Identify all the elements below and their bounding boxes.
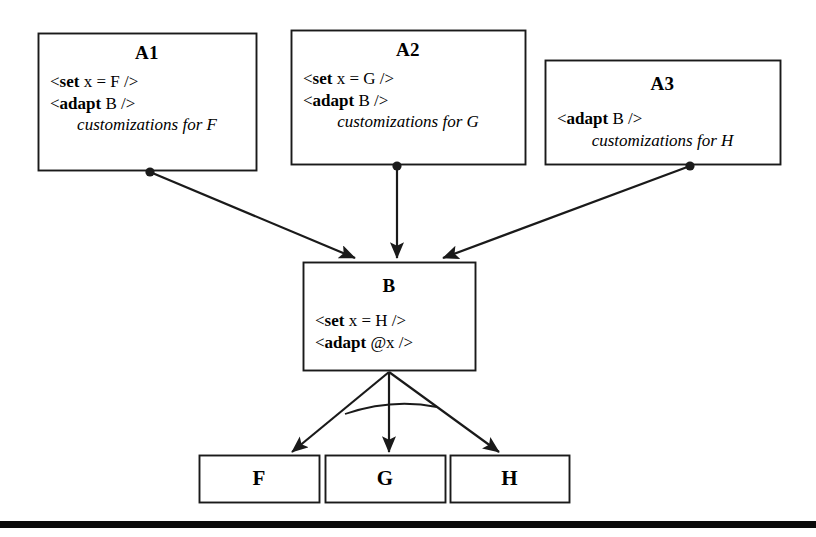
element-keyword: set [60, 72, 80, 91]
node-body-b: <set x = H /><adapt @x /> [303, 310, 475, 354]
node-b[interactable]: B<set x = H /><adapt @x /> [303, 262, 475, 370]
edge-a3-to-b [443, 166, 690, 258]
element-keyword: adapt [325, 333, 367, 352]
node-line-a1-2: customizations for F [38, 114, 256, 136]
node-line-a1-0: <set x = F /> [38, 71, 256, 93]
leaf-node-h[interactable]: H [450, 455, 569, 502]
node-line-a3-0: <adapt B /> [545, 108, 780, 130]
node-line-b-0: <set x = H /> [303, 310, 475, 332]
edge-b-to-f [292, 372, 389, 452]
bottom-rule-divider [0, 521, 816, 528]
leaf-label-h: H [501, 466, 518, 491]
edge-a1-to-b [150, 172, 355, 258]
node-body-a1: <set x = F /><adapt B />customizations f… [38, 71, 256, 136]
element-keyword: set [313, 69, 333, 88]
element-keyword: adapt [313, 91, 355, 110]
diagram-canvas: A1<set x = F /><adapt B />customizations… [0, 0, 816, 537]
leaf-node-g[interactable]: G [325, 455, 445, 502]
node-line-a2-1: <adapt B /> [291, 90, 525, 112]
node-line-a2-0: <set x = G /> [291, 68, 525, 90]
leaf-label-f: F [252, 466, 265, 491]
node-body-a3: <adapt B />customizations for H [545, 108, 780, 152]
node-a2[interactable]: A2<set x = G /><adapt B />customizations… [291, 30, 525, 164]
node-title-a3: A3 [545, 74, 780, 94]
leaf-node-f[interactable]: F [199, 455, 319, 502]
node-line-a3-1: customizations for H [545, 130, 780, 152]
element-keyword: set [325, 311, 345, 330]
alternative-choice-arc [345, 404, 437, 414]
edge-b-to-h [389, 372, 499, 452]
node-a1[interactable]: A1<set x = F /><adapt B />customizations… [38, 33, 256, 170]
node-body-a2: <set x = G /><adapt B />customizations f… [291, 68, 525, 133]
leaf-label-g: G [377, 466, 394, 491]
node-title-b: B [303, 276, 475, 296]
node-line-a2-2: customizations for G [291, 111, 525, 133]
node-title-a1: A1 [38, 43, 256, 63]
node-line-b-1: <adapt @x /> [303, 332, 475, 354]
node-line-a1-1: <adapt B /> [38, 93, 256, 115]
element-keyword: adapt [567, 109, 609, 128]
node-a3[interactable]: A3<adapt B />customizations for H [545, 60, 780, 164]
element-keyword: adapt [60, 94, 102, 113]
node-title-a2: A2 [291, 40, 525, 60]
